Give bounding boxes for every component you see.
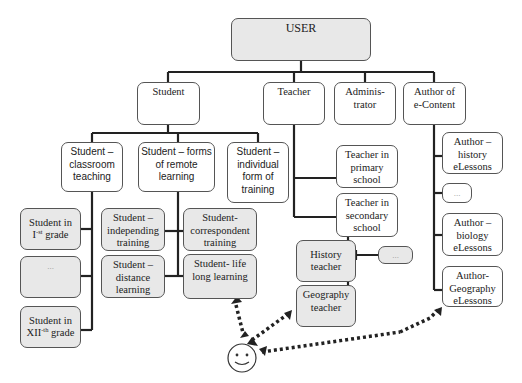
node-label: Student – formsof remotelearning — [141, 146, 212, 184]
node-teacher-label: Teacher — [277, 86, 310, 99]
node-label: Author-GeographyeLessons — [449, 270, 496, 307]
user-hierarchy-diagram: USER Student Teacher Adminis-trator Auth… — [0, 0, 522, 383]
node-label: Author –historyeLessons — [453, 136, 492, 174]
node-author-label: Author ofe-Content — [414, 86, 455, 111]
node-label: Student- lifelong learning — [192, 258, 248, 283]
node-teacher: Teacher — [263, 82, 325, 125]
smiley-face-icon — [225, 341, 259, 375]
ellipsis-label: ... — [392, 249, 399, 262]
node-label: Teacher insecondaryschool — [345, 197, 389, 235]
node-author-biology: Author –biologyeLessons — [442, 213, 503, 256]
node-student-label: Student — [152, 86, 184, 99]
node-label: Student inI-st grade — [29, 217, 72, 242]
node-lifelong: Student- lifelong learning — [183, 254, 257, 299]
node-label: Student inXII-th grade — [27, 315, 75, 340]
node-author-geography: Author-GeographyeLessons — [442, 266, 503, 307]
node-label: Student –distancelearning — [113, 259, 153, 297]
node-label: Student –independingtraining — [107, 212, 159, 250]
node-grade-12: Student inXII-th grade — [20, 306, 81, 348]
node-author-history: Author –historyeLessons — [442, 132, 503, 174]
node-label: Historyteacher — [310, 249, 342, 274]
node-label: Author –biologyeLessons — [453, 217, 492, 255]
node-author-ellipsis: ... — [442, 183, 472, 203]
node-student-individual: Student –individualform oftraining — [227, 142, 289, 203]
node-correspondent: Student-correspondenttraining — [183, 208, 257, 251]
ellipsis-label: ... — [454, 187, 461, 200]
node-label: Teacher inprimaryschool — [345, 149, 389, 187]
node-geography-teacher: Geographyteacher — [296, 285, 356, 327]
node-label: Student –individualform oftraining — [237, 146, 280, 196]
node-history-teacher: Historyteacher — [296, 240, 356, 282]
node-student-classroom: Student –classroomteaching — [61, 142, 123, 192]
node-secondary-teacher: Teacher insecondaryschool — [336, 193, 398, 237]
node-user: USER — [231, 18, 371, 61]
node-administrator: Adminis-trator — [334, 82, 396, 125]
node-author: Author ofe-Content — [403, 82, 466, 125]
node-primary-teacher: Teacher inprimaryschool — [336, 145, 398, 188]
node-grade-ellipsis: ... — [20, 256, 81, 298]
node-distance: Student –distancelearning — [101, 255, 165, 298]
node-label: Student-correspondenttraining — [190, 212, 249, 250]
node-teacher-ellipsis: ... — [378, 246, 413, 264]
node-independing: Student –independingtraining — [101, 208, 165, 251]
node-student: Student — [137, 82, 200, 125]
node-student-remote: Student – formsof remotelearning — [138, 142, 215, 192]
ellipsis-label: ... — [47, 260, 54, 273]
node-user-label: USER — [286, 22, 317, 35]
node-grade-1: Student inI-st grade — [20, 208, 81, 250]
node-administrator-label: Adminis-trator — [345, 86, 385, 111]
node-label: Geographyteacher — [303, 289, 350, 314]
node-label: Student –classroomteaching — [69, 146, 115, 184]
